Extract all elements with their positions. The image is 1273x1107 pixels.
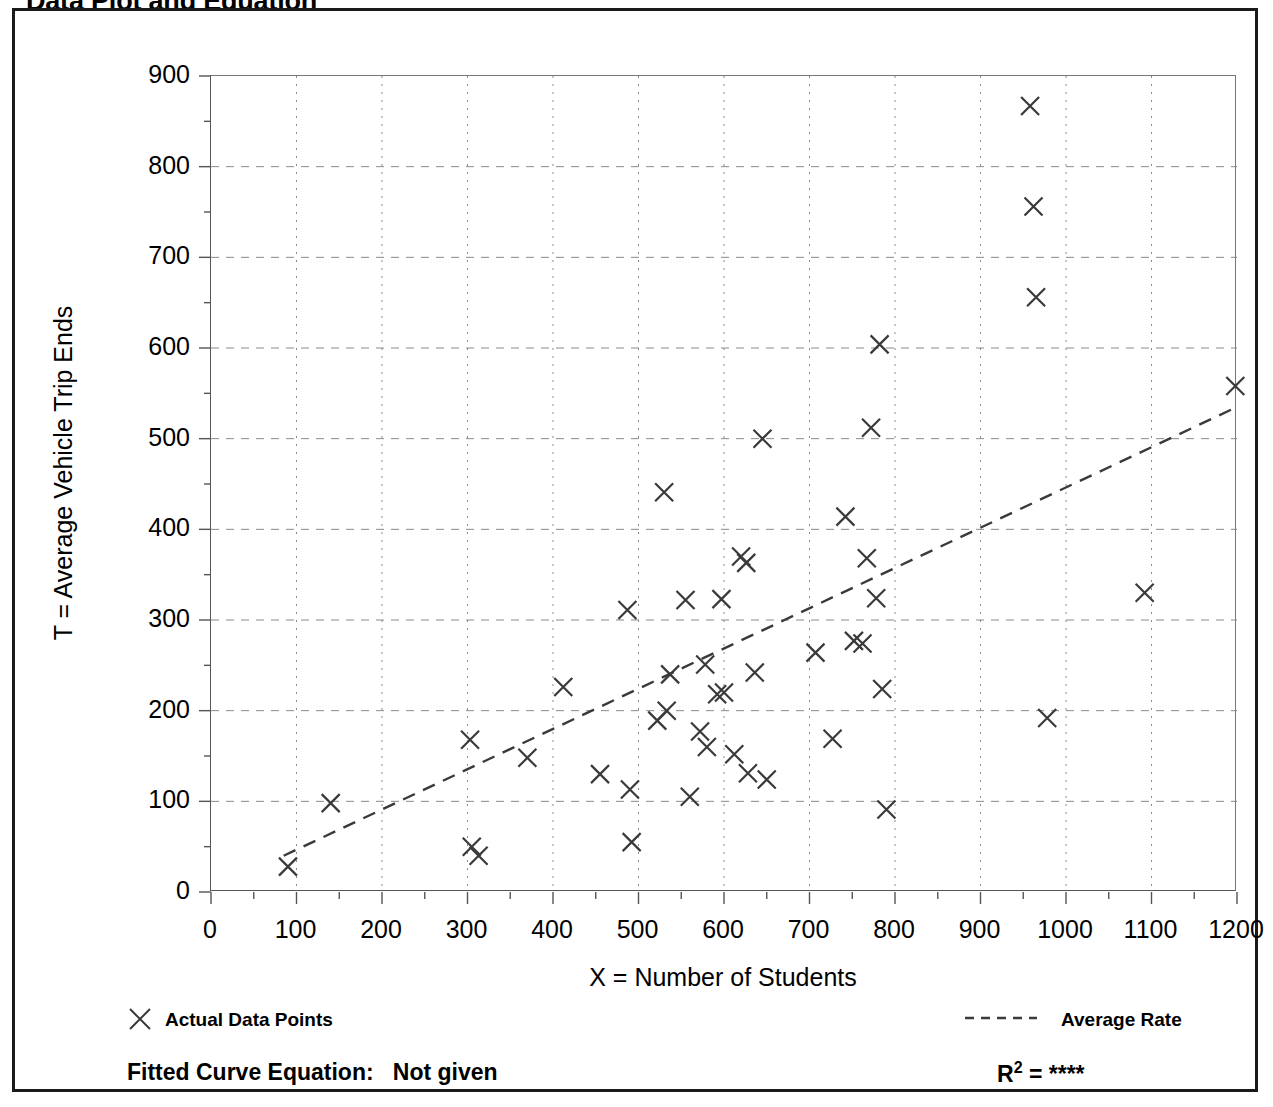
- data-point-marker: [871, 335, 889, 353]
- data-point-marker: [591, 765, 609, 783]
- legend-label-average-rate: Average Rate: [1061, 1009, 1182, 1031]
- y-axis-tick-label: 600: [30, 334, 190, 359]
- data-point-marker: [322, 794, 340, 812]
- data-point-marker: [737, 554, 755, 572]
- trend-line-average-rate: [284, 407, 1237, 856]
- data-point-marker: [698, 738, 716, 756]
- data-point-marker: [1021, 97, 1039, 115]
- figure-frame: T = Average Vehicle Trip Ends X = Number…: [12, 8, 1258, 1092]
- y-axis-tick-label: 200: [30, 697, 190, 722]
- data-series-layer: [211, 76, 1237, 892]
- r-squared-exponent: 2: [1014, 1059, 1023, 1076]
- data-point-marker: [518, 749, 536, 767]
- data-point-marker: [1027, 288, 1045, 306]
- data-point-marker: [691, 723, 709, 741]
- data-point-marker: [677, 591, 695, 609]
- scatter-series-actual-data-points: [279, 97, 1244, 876]
- data-point-marker: [279, 858, 297, 876]
- legend-dashed-line-icon: [963, 1013, 1039, 1023]
- data-point-marker: [867, 589, 885, 607]
- y-axis-tick-label: 400: [30, 515, 190, 540]
- data-point-marker: [623, 833, 641, 851]
- y-axis-tick-label: 300: [30, 606, 190, 631]
- r-squared-equals: =: [1029, 1061, 1042, 1087]
- data-point-marker: [463, 838, 481, 856]
- r-squared-stars: ****: [1049, 1061, 1085, 1087]
- data-point-marker: [470, 847, 488, 865]
- data-point-marker: [858, 549, 876, 567]
- plot-area: [210, 75, 1236, 891]
- data-point-marker: [836, 508, 854, 526]
- r-squared-label: R: [997, 1061, 1014, 1087]
- data-point-marker: [618, 601, 636, 619]
- data-point-marker: [1136, 584, 1154, 602]
- y-axis-tick-label: 0: [30, 878, 190, 903]
- fitted-curve-label: Fitted Curve Equation:: [127, 1059, 374, 1085]
- data-point-marker: [621, 781, 639, 799]
- data-point-marker: [658, 702, 676, 720]
- data-point-marker: [862, 419, 880, 437]
- fitted-curve-value: Not given: [393, 1059, 498, 1085]
- y-axis-tick-label: 500: [30, 425, 190, 450]
- data-point-marker: [1025, 198, 1043, 216]
- fitted-curve-equation: Fitted Curve Equation: Not given: [127, 1059, 498, 1086]
- legend-x-marker-icon: [127, 1006, 153, 1032]
- data-point-marker: [739, 764, 757, 782]
- data-point-marker: [1226, 377, 1244, 395]
- data-point-marker: [712, 590, 730, 608]
- data-point-marker: [758, 771, 776, 789]
- data-point-marker: [655, 483, 673, 501]
- data-point-marker: [681, 788, 699, 806]
- data-point-marker: [753, 430, 771, 448]
- data-point-marker: [461, 731, 479, 749]
- y-axis-tick-label: 800: [30, 153, 190, 178]
- data-point-marker: [873, 680, 891, 698]
- data-point-marker: [725, 745, 743, 763]
- data-point-marker: [806, 644, 824, 662]
- x-axis-label: X = Number of Students: [589, 963, 857, 992]
- legend-label-actual-data-points: Actual Data Points: [165, 1009, 333, 1031]
- data-point-marker: [746, 664, 764, 682]
- y-axis-tick-label: 900: [30, 62, 190, 87]
- data-point-marker: [824, 730, 842, 748]
- x-axis-tick-label: 1200: [1176, 917, 1273, 942]
- y-axis-tick-label: 100: [30, 787, 190, 812]
- r-squared-value: R2 = ****: [997, 1059, 1085, 1088]
- data-point-marker: [1038, 709, 1056, 727]
- data-point-marker: [877, 800, 895, 818]
- data-point-marker: [554, 678, 572, 696]
- y-axis-tick-label: 700: [30, 243, 190, 268]
